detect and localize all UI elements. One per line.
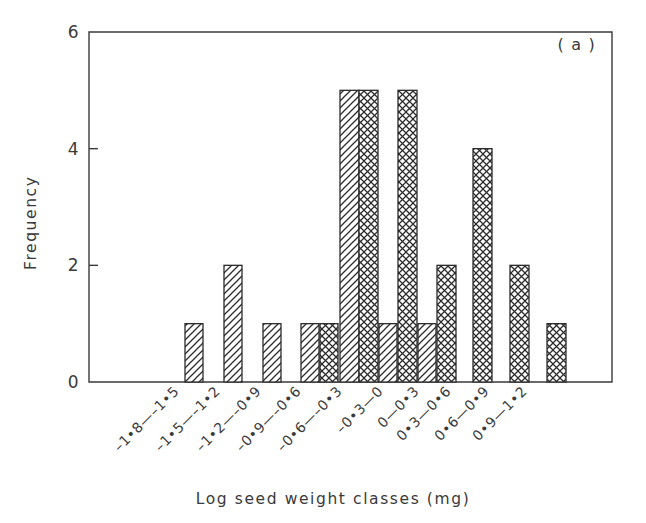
histogram-bar bbox=[379, 324, 397, 382]
histogram-bar bbox=[510, 265, 529, 382]
histogram-chart: 0246 Frequency Log seed weight classes (… bbox=[0, 0, 646, 523]
y-axis-title: Frequency bbox=[22, 176, 40, 270]
histogram-bar bbox=[473, 149, 492, 382]
y-axis-tick-label: 2 bbox=[68, 255, 79, 275]
y-axis-ticks: 0246 bbox=[68, 22, 98, 392]
histogram-bar bbox=[263, 324, 281, 382]
histogram-bar bbox=[437, 265, 456, 382]
bar-series bbox=[185, 90, 566, 382]
figure-panel-a: 0246 Frequency Log seed weight classes (… bbox=[0, 0, 646, 523]
histogram-bar bbox=[320, 324, 338, 382]
y-axis-tick-label: 6 bbox=[68, 22, 79, 42]
y-axis-tick-label: 0 bbox=[68, 372, 79, 392]
histogram-bar bbox=[547, 324, 566, 382]
histogram-bar bbox=[301, 324, 319, 382]
x-axis-title: Log seed weight classes (mg) bbox=[196, 490, 471, 508]
panel-label: ( a ) bbox=[558, 35, 596, 54]
histogram-bar bbox=[224, 265, 242, 382]
x-axis-category-labels: –1•8—–1•5–1•5—–1•2–1•2—–0•9–0•9—–0•6–0•6… bbox=[110, 383, 530, 455]
y-axis-tick-label: 4 bbox=[68, 139, 79, 159]
histogram-bar bbox=[418, 324, 436, 382]
histogram-bar bbox=[340, 90, 359, 382]
histogram-bar bbox=[398, 90, 417, 382]
histogram-bar bbox=[359, 90, 378, 382]
histogram-bar bbox=[185, 324, 203, 382]
